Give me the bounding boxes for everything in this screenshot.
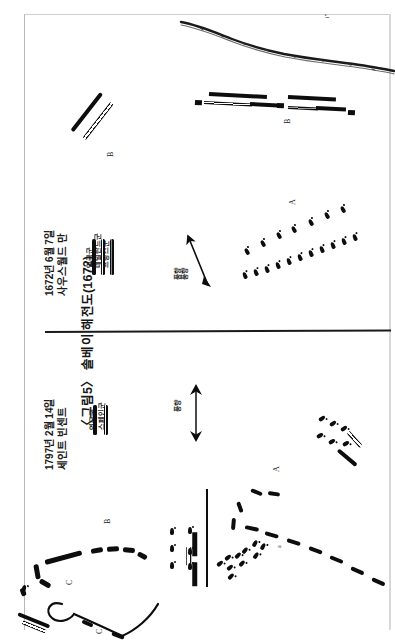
stvincent-date: 1797년 2월 14일: [41, 399, 56, 471]
solebay-coastline: [180, 16, 395, 82]
stvincent-wind-arrow: [183, 382, 209, 444]
solebay-marker-B-left: B: [106, 152, 115, 157]
solebay-marker-B-upper: B: [283, 119, 292, 124]
solebay-ship-block-2: [277, 103, 284, 108]
stvincent-legend-swatch-1: [93, 405, 97, 435]
stvincent-line-rule: [206, 489, 208, 587]
stvincent-wind-label: 풍향: [172, 400, 182, 412]
stvincent-title: 세인트 빈센트: [54, 407, 69, 470]
solebay-title: 사우스월드 만: [54, 233, 69, 296]
stvincent-marker-a: a: [276, 545, 282, 548]
solebay-legend-swatch-0: [110, 239, 114, 275]
figure-caption: 〈그림5〉 솔베이 해전도(1672): [77, 172, 96, 432]
stvincent-legend-swatch-0: [104, 405, 108, 435]
solebay-wind-label-duplicate: 풍향: [179, 268, 189, 280]
stvincent-marker-C-lower: C: [95, 629, 104, 634]
stvincent-marker-C-upper: C: [65, 580, 74, 585]
solebay-legend-swatch-2: [92, 239, 96, 275]
solebay-wind-arrow: [180, 230, 240, 300]
solebay-ship-block-3: [348, 110, 355, 115]
solebay-legend-swatch-1: [101, 239, 105, 275]
solebay-ship-block-1: [195, 100, 202, 105]
solebay-corner-mark: i": [324, 14, 330, 18]
solebay-date: 1672년 6월 7일: [41, 230, 56, 296]
solebay-marker-A: A: [288, 199, 297, 205]
stvincent-marker-B: B: [103, 519, 112, 524]
stvincent-marker-A: A: [272, 466, 281, 472]
scan-frame-right-edge: [389, 14, 391, 630]
